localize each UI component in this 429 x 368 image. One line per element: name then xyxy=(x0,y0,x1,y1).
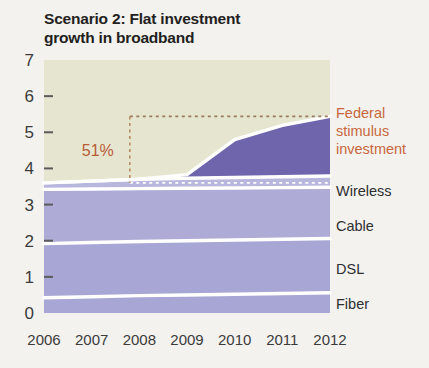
y-axis-label-7: 7 xyxy=(25,51,34,70)
percent-annotation: 51% xyxy=(82,142,114,159)
y-axis-label-3: 3 xyxy=(25,196,34,215)
legend-label-federal-stimulus-investment: Federal xyxy=(336,105,385,121)
y-axis-label-4: 4 xyxy=(25,159,34,178)
legend-label-cable: Cable xyxy=(336,218,374,234)
legend-label-fiber: Fiber xyxy=(336,296,369,312)
y-axis-label-2: 2 xyxy=(25,232,34,251)
legend-label-federal-stimulus-investment: stimulus xyxy=(336,123,389,139)
x-axis-label-2008: 2008 xyxy=(123,331,156,348)
x-axis-label-2006: 2006 xyxy=(27,331,60,348)
legend-label-federal-stimulus-investment: investment xyxy=(336,141,406,157)
y-axis-label-6: 6 xyxy=(25,87,34,106)
stacked-area-chart: 76543210200620072008200920102011201251%F… xyxy=(0,0,429,368)
area-series-cable xyxy=(44,187,330,243)
y-axis-label-5: 5 xyxy=(25,123,34,142)
x-axis-label-2010: 2010 xyxy=(218,331,251,348)
chart-figure: Scenario 2: Flat investment growth in br… xyxy=(0,0,429,368)
series-separator xyxy=(44,187,330,189)
x-axis-label-2007: 2007 xyxy=(75,331,108,348)
x-axis-label-2011: 2011 xyxy=(266,331,298,348)
y-axis-label-1: 1 xyxy=(25,268,34,287)
legend-label-wireless: Wireless xyxy=(336,183,392,199)
x-axis-label-2009: 2009 xyxy=(170,331,203,348)
legend-label-dsl: DSL xyxy=(336,261,364,277)
x-axis-label-2012: 2012 xyxy=(313,331,346,348)
area-series-dsl xyxy=(44,239,330,298)
y-axis-label-0: 0 xyxy=(25,304,34,323)
